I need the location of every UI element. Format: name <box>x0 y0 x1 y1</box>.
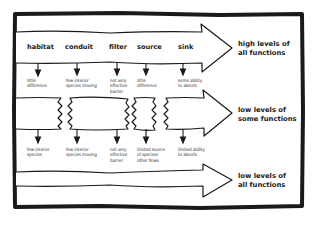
column-label-filter: filter <box>109 44 127 51</box>
effect-habitat-row-2: few interior species <box>27 147 50 158</box>
column-label-conduit: conduit <box>65 44 93 51</box>
column-label-habitat: habitat <box>27 44 54 51</box>
level-label-low-all: low levels of all functions <box>238 172 286 190</box>
column-label-sink: sink <box>178 44 193 51</box>
level-label-high-all: high levels of all functions <box>238 40 290 58</box>
effect-habitat-row-1: little difference <box>27 78 47 89</box>
effect-filter-row-2: not very effective barrier <box>110 147 127 163</box>
effect-source-row-2: limited source of species/ other flows <box>137 147 165 163</box>
effect-conduit-row-1: few interior species moving <box>66 78 97 89</box>
effect-filter-row-1: not very effective barrier <box>110 78 127 94</box>
arrow-low-some-functions <box>16 90 232 136</box>
effect-sink-row-2: limited ability to absorb <box>178 147 205 158</box>
effect-conduit-row-2: few interior species moving <box>66 147 97 158</box>
level-label-low-some: low levels of some functions <box>238 106 297 124</box>
arrow-low-all-functions <box>16 164 232 197</box>
effect-sink-row-1: some ability to absorb <box>178 78 202 89</box>
effect-arrows-row-2 <box>36 129 186 143</box>
column-label-source: source <box>137 44 162 51</box>
effect-source-row-1: little difference <box>137 78 157 89</box>
effect-arrows-row-1 <box>36 63 186 76</box>
